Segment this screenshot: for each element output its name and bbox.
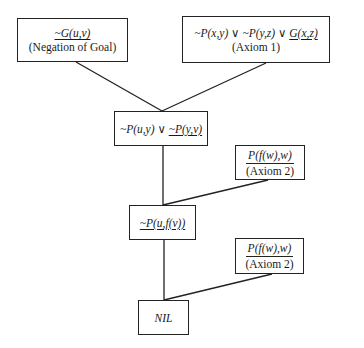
formula-resolvent1-prefix: ~P(u,y) ∨ bbox=[120, 123, 169, 135]
label-neg-goal: (Negation of Goal) bbox=[29, 40, 117, 54]
edge-neggoal-resolvent1 bbox=[76, 62, 162, 111]
formula-axiom2a: P(f(w),w) bbox=[246, 148, 294, 164]
formula-axiom1-prefix: ~P(x,y) ∨ ~P(y,z) ∨ bbox=[194, 27, 289, 39]
node-nil: NIL bbox=[138, 300, 189, 335]
label-axiom2b: (Axiom 2) bbox=[245, 257, 293, 271]
formula-resolvent1-literal: ~P(y,v) bbox=[169, 123, 202, 135]
edge-axiom2a-resolvent2 bbox=[163, 180, 268, 205]
edge-axiom2b-nil bbox=[164, 274, 272, 300]
formula-axiom2b: P(f(w),w) bbox=[246, 241, 294, 257]
node-axiom-1: ~P(x,y) ∨ ~P(y,z) ∨ G(x,z) (Axiom 1) bbox=[182, 16, 330, 63]
edge-axiom1-resolvent1 bbox=[162, 63, 266, 111]
node-negation-of-goal: ~G(u,v) (Negation of Goal) bbox=[17, 18, 128, 62]
label-axiom2a: (Axiom 2) bbox=[246, 164, 294, 178]
node-axiom-2b: P(f(w),w) (Axiom 2) bbox=[235, 238, 304, 274]
formula-axiom1: ~P(x,y) ∨ ~P(y,z) ∨ G(x,z) bbox=[194, 26, 317, 40]
formula-axiom1-literal: G(x,z) bbox=[289, 27, 317, 39]
node-resolvent-2: ~P(u,f(v)) bbox=[129, 205, 196, 240]
formula-neg-goal: ~G(u,v) bbox=[55, 26, 91, 40]
formula-resolvent1: ~P(u,y) ∨ ~P(y,v) bbox=[120, 122, 202, 136]
formula-resolvent2: ~P(u,f(v)) bbox=[140, 216, 186, 230]
label-axiom1: (Axiom 1) bbox=[232, 40, 280, 54]
node-resolvent-1: ~P(u,y) ∨ ~P(y,v) bbox=[114, 111, 208, 146]
node-axiom-2a: P(f(w),w) (Axiom 2) bbox=[235, 145, 305, 180]
formula-nil: NIL bbox=[155, 311, 173, 325]
